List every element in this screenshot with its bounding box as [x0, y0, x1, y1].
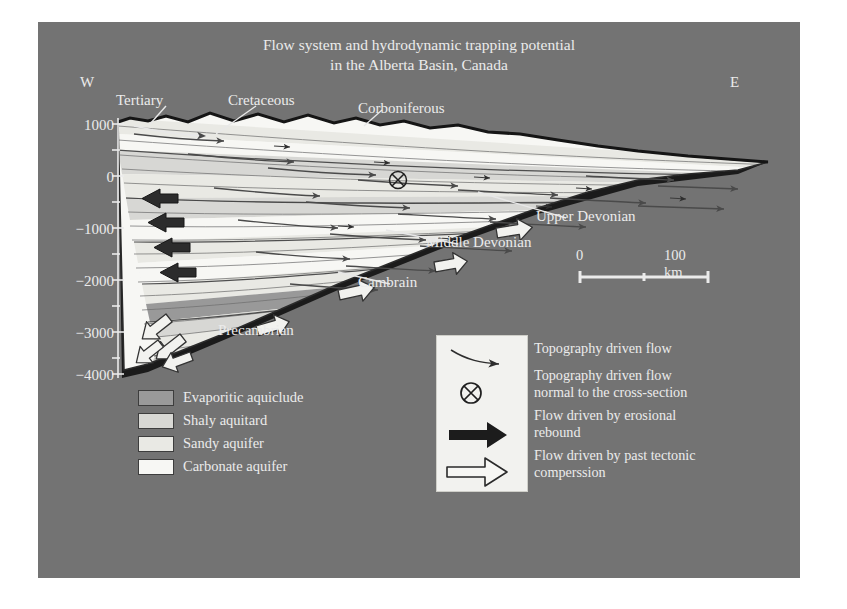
formation-label-cretaceous: Cretaceous: [228, 92, 295, 109]
flow-legend-label-topography: Topography driven flow: [534, 340, 672, 357]
legend-item-sandy[interactable]: Sandy aquifer: [138, 433, 303, 454]
scale-start-label: 0: [576, 247, 583, 264]
legend-label-evaporitic: Evaporitic aquiclude: [183, 389, 303, 406]
lithology-legend: Evaporitic aquiclude Shaly aquitard Sand…: [138, 387, 303, 479]
legend-item-shaly[interactable]: Shaly aquitard: [138, 410, 303, 431]
thin-curved-arrow-icon: [451, 350, 499, 364]
flow-legend-label-normal-section: Topography driven flow normal to the cro…: [534, 367, 687, 400]
circle-cross-icon: [461, 383, 481, 403]
flow-legend-symbol-panel: [436, 335, 528, 492]
swatch-sandy-aquifer: [138, 436, 174, 452]
legend-item-carbonate[interactable]: Carbonate aquifer: [138, 456, 303, 477]
swatch-carbonate-aquifer: [138, 459, 174, 475]
legend-label-carbonate: Carbonate aquifer: [183, 458, 287, 475]
flow-legend-symbols: [437, 336, 525, 489]
legend-item-evaporitic[interactable]: Evaporitic aquiclude: [138, 387, 303, 408]
legend-label-shaly: Shaly aquitard: [183, 412, 267, 429]
formation-label-cambrain: Cambrain: [358, 274, 417, 291]
flow-legend-label-erosional-rebound: Flow driven by erosional rebound: [534, 407, 676, 440]
hollow-block-arrow-icon: [447, 458, 507, 486]
formation-label-corboniferous: Corboniferous: [358, 100, 445, 117]
figure-panel: Flow system and hydrodynamic trapping po…: [38, 22, 800, 578]
formation-label-precambrian: Precambrian: [218, 322, 294, 339]
scale-bar-graphic: [576, 267, 736, 291]
solid-block-arrow-icon: [449, 422, 507, 448]
legend-label-sandy: Sandy aquifer: [183, 435, 264, 452]
formation-label-upper-devonian: Upper Devonian: [536, 208, 636, 225]
flow-legend-label-tectonic-compression: Flow driven by past tectonic comperssion: [534, 447, 696, 480]
formation-label-middle-devonian: Middle Devonian: [426, 234, 531, 251]
swatch-shaly-aquitard: [138, 413, 174, 429]
swatch-evaporitic-aquiclude: [138, 390, 174, 406]
formation-label-tertiary: Tertiary: [116, 92, 163, 109]
